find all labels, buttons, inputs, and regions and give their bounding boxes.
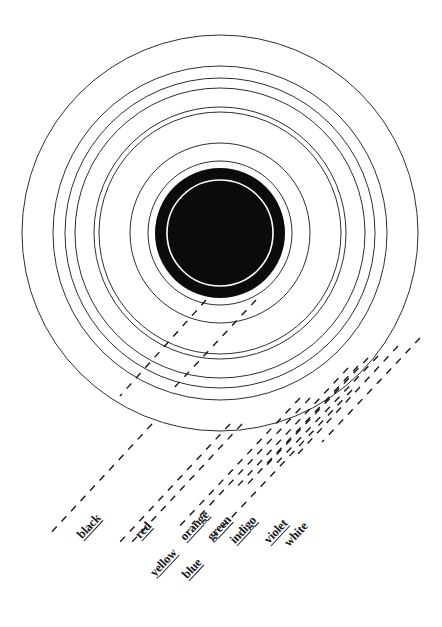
figure-root: black red yellow orange blue green indig… — [0, 0, 442, 627]
core-disc — [155, 168, 285, 298]
central-black-disc — [155, 168, 285, 298]
